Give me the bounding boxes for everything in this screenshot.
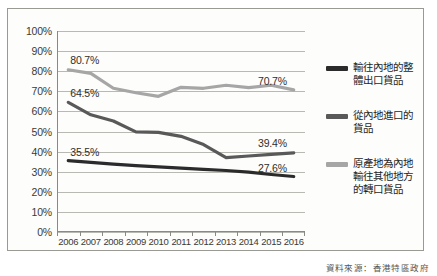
x-tick-mark [282,232,283,236]
y-tick-label: 10% [32,206,52,218]
legend-item-imports-from-mainland: 從內地進口的貨品 [326,109,421,135]
y-tick-label: 30% [32,166,52,178]
y-tick-label: 70% [32,85,52,97]
x-tick-label: 2009 [126,236,146,247]
y-tick-label: 60% [32,105,52,117]
x-tick-label: 2011 [171,236,190,247]
y-tick-label: 40% [32,146,52,158]
x-tick-mark [170,232,171,236]
x-tick-label: 2008 [103,236,123,247]
legend-label: 從內地進口的貨品 [353,109,421,135]
legend: 輸往內地的整體出口貨品 從內地進口的貨品 原產地為內地輸往其他地方的轉口貨品 [326,61,421,218]
x-tick-mark [80,232,81,236]
x-tick-label: 2014 [239,236,259,247]
x-tick-label: 2016 [284,236,304,247]
data-label: 64.5% [70,87,99,99]
y-tick-label: 90% [32,45,52,57]
x-tick-mark [57,232,58,236]
data-label: 39.4% [258,137,287,149]
x-tick-label: 2015 [261,236,281,247]
legend-swatch-icon [326,66,348,71]
gridline [57,232,305,233]
x-tick-label: 2006 [58,236,78,247]
legend-swatch-icon [326,162,348,167]
source-note: 資料來源：香港特區政府 [326,261,429,273]
y-tick-label: 100% [26,25,52,37]
x-tick-mark [192,232,193,236]
y-tick-label: 20% [32,186,52,198]
series-line [68,102,293,157]
x-tick-mark [260,232,261,236]
y-tick-label: 0% [37,226,52,238]
chart-screenshot: 100%90%80%70%60%50%40%30%20%10%0% 200620… [0,0,437,276]
x-tick-label: 2013 [216,236,236,247]
legend-item-mainland-origin-reexports: 原產地為內地輸往其他地方的轉口貨品 [326,157,421,196]
legend-label: 原產地為內地輸往其他地方的轉口貨品 [353,157,421,196]
data-label: 80.7% [70,54,99,66]
x-tick-label: 2012 [194,236,214,247]
x-tick-label: 2010 [148,236,168,247]
chart-card: 100%90%80%70%60%50%40%30%20%10%0% 200620… [7,8,424,251]
x-tick-mark [102,232,103,236]
data-label: 35.5% [70,146,99,158]
x-tick-mark [125,232,126,236]
legend-item-exports-to-mainland: 輸往內地的整體出口貨品 [326,61,421,87]
legend-swatch-icon [326,114,348,119]
y-tick-label: 50% [32,126,52,138]
plot-area: 100%90%80%70%60%50%40%30%20%10%0% 200620… [57,31,305,232]
data-label: 70.7% [258,75,287,87]
data-label: 27.6% [258,162,287,174]
x-tick-mark [237,232,238,236]
x-tick-mark [215,232,216,236]
legend-label: 輸往內地的整體出口貨品 [353,61,421,87]
y-tick-label: 80% [32,65,52,77]
x-tick-mark [147,232,148,236]
x-tick-label: 2007 [81,236,101,247]
x-tick-mark [304,232,305,236]
